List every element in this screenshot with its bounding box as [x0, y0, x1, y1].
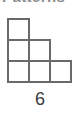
- unit-square: [8, 19, 29, 40]
- staircase-svg: [0, 12, 80, 88]
- unit-square: [29, 61, 50, 82]
- staircase-shape: [0, 12, 80, 88]
- unit-square: [8, 40, 29, 61]
- squares-group: [8, 19, 71, 82]
- unit-square: [29, 40, 50, 61]
- unit-square: [50, 61, 71, 82]
- unit-square: [8, 61, 29, 82]
- heading-clip: Patterns: [0, 0, 80, 5]
- square-count-label: 6: [0, 88, 80, 110]
- pattern-figure-card: Patterns 6: [0, 0, 80, 116]
- page-title: Patterns: [2, 0, 80, 5]
